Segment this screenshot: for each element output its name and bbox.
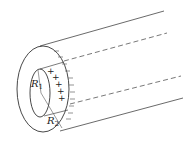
r2-label: R2 (46, 115, 59, 128)
inner-top-dashed (64, 33, 167, 61)
outer-bottom-edge (60, 98, 183, 131)
inner-bottom-dashed (70, 76, 181, 104)
r1-label: R1 (30, 78, 43, 91)
coaxial-cylinder-diagram: + + + + + + R1 R2 (0, 0, 190, 142)
outer-top-edge (40, 11, 164, 46)
inner-cylinder-face (30, 69, 50, 117)
